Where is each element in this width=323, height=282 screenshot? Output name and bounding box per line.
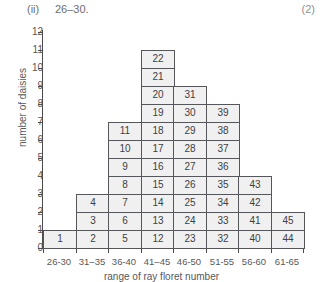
bar-cell: 43: [238, 176, 272, 195]
bar-cell: 40: [238, 230, 272, 249]
bar-cell: 29: [173, 122, 207, 141]
bar-cell: 45: [271, 212, 305, 231]
question-answer-text: 26–30.: [55, 3, 89, 15]
bar-cell: 37: [206, 140, 240, 159]
bar-cell: 15: [141, 176, 175, 195]
bar-cell: 26: [173, 176, 207, 195]
bar-cell: 36: [206, 158, 240, 177]
stacked-bars: 1234567891011121314151617181920212223242…: [0, 20, 323, 260]
bar-cell: 30: [173, 104, 207, 123]
bar-cell: 25: [173, 194, 207, 213]
bar-cell: 31: [173, 86, 207, 105]
bar-cell: 22: [141, 50, 175, 69]
bar-cell: 24: [173, 212, 207, 231]
bar-cell: 8: [108, 176, 142, 195]
bar-cell: 6: [108, 212, 142, 231]
bar-cell: 18: [141, 122, 175, 141]
bar-cell: 7: [108, 194, 142, 213]
x-axis-title: range of ray floret number: [0, 271, 323, 282]
bar-cell: 39: [206, 104, 240, 123]
bar-cell: 10: [108, 140, 142, 159]
question-marks: (2): [302, 3, 315, 15]
bar-cell: 14: [141, 194, 175, 213]
bar-cell: 27: [173, 158, 207, 177]
bar-cell: 3: [76, 212, 110, 231]
bar-cell: 16: [141, 158, 175, 177]
bar-cell: 20: [141, 86, 175, 105]
bar-cell: 32: [206, 230, 240, 249]
bar-cell: 5: [108, 230, 142, 249]
bar-cell: 11: [108, 122, 142, 141]
bar-cell: 17: [141, 140, 175, 159]
bar-cell: 9: [108, 158, 142, 177]
bar-cell: 13: [141, 212, 175, 231]
bar-cell: 44: [271, 230, 305, 249]
question-number: (ii): [27, 3, 39, 15]
bar-cell: 35: [206, 176, 240, 195]
bar-cell: 33: [206, 212, 240, 231]
bar-cell: 41: [238, 212, 272, 231]
question-header: (ii) 26–30. (2): [0, 0, 323, 20]
bar-cell: 19: [141, 104, 175, 123]
bar-cell: 2: [76, 230, 110, 249]
bar-cell: 4: [76, 194, 110, 213]
bar-cell: 34: [206, 194, 240, 213]
histogram-chart: number of daisies 0123456789101112 26-30…: [0, 20, 323, 277]
bar-cell: 21: [141, 68, 175, 87]
bar-cell: 28: [173, 140, 207, 159]
bar-cell: 42: [238, 194, 272, 213]
bar-cell: 23: [173, 230, 207, 249]
bar-cell: 1: [43, 230, 77, 249]
bar-cell: 12: [141, 230, 175, 249]
bar-cell: 38: [206, 122, 240, 141]
